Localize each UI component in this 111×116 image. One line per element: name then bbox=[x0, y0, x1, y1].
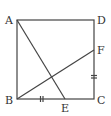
label-e: E bbox=[61, 102, 69, 115]
segment-bf bbox=[17, 50, 94, 99]
diagram-canvas: A D F B C E bbox=[0, 0, 111, 116]
label-d: D bbox=[97, 14, 106, 27]
label-c: C bbox=[97, 94, 105, 107]
geometry-diagram: A D F B C E bbox=[0, 0, 111, 116]
label-a: A bbox=[4, 14, 14, 27]
segment-ae bbox=[17, 20, 65, 99]
label-f: F bbox=[97, 44, 105, 57]
square-abcd bbox=[17, 20, 94, 99]
label-b: B bbox=[5, 94, 13, 107]
